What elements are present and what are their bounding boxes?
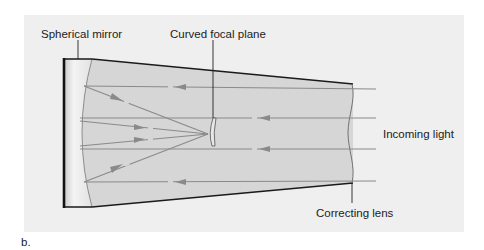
label-correcting-lens: Correcting lens	[316, 208, 393, 220]
label-spherical-mirror: Spherical mirror	[41, 29, 122, 41]
label-curved-focal-plane: Curved focal plane	[170, 29, 266, 41]
panel-label: b.	[21, 237, 31, 249]
telescope-tube	[64, 59, 353, 207]
label-incoming-light: Incoming light	[383, 129, 454, 141]
